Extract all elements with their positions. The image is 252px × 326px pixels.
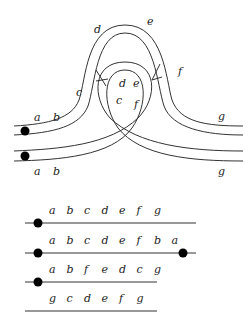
top-labels: defcdecfabgabg	[34, 15, 225, 178]
sequence-label: d	[84, 292, 91, 305]
sequence-label: f	[118, 292, 125, 305]
strand-label: e	[147, 15, 154, 28]
endpoint-dot	[179, 249, 188, 258]
arch-ribbon	[14, 25, 243, 135]
endpoint-dot	[21, 127, 30, 136]
loop-ribbon	[14, 62, 243, 161]
endpoint-dot	[34, 219, 43, 228]
sequence-label: g	[154, 204, 161, 217]
strand-label: a	[34, 111, 41, 124]
crossing-marks	[96, 64, 162, 86]
sequence-label: f	[83, 263, 90, 276]
sequence-label: c	[67, 292, 73, 305]
strand-label: g	[218, 110, 225, 123]
strand-label: a	[34, 165, 41, 178]
strand-label: c	[76, 86, 82, 99]
sequence-label: b	[154, 234, 161, 247]
sequence-label: g	[49, 292, 56, 305]
sequence-label: e	[102, 292, 109, 305]
strand-label: f	[133, 98, 140, 111]
sequence-lines: abcdefgabcdefbaabfedcggcdefg	[25, 204, 196, 311]
sequence-label: c	[137, 263, 143, 276]
sequence-label: g	[137, 292, 144, 305]
sequence-label: a	[172, 234, 179, 247]
strand-label: b	[53, 111, 60, 124]
strand-label: d	[119, 77, 126, 90]
sequence-label: b	[67, 204, 74, 217]
sequence-label: d	[119, 263, 126, 276]
endpoint-dot	[34, 249, 43, 258]
sequence-label: b	[67, 234, 74, 247]
strand-label: f	[177, 65, 184, 78]
strand-label: b	[53, 165, 60, 178]
strand-label: d	[94, 23, 101, 36]
sequence-label: e	[102, 263, 109, 276]
endpoint-dot	[21, 152, 30, 161]
sequence-label: c	[84, 234, 90, 247]
sequence-label: d	[102, 234, 109, 247]
knot-diagram: defcdecfabgabg abcdefgabcdefbaabfedcggcd…	[0, 0, 252, 326]
sequence-label: e	[119, 204, 126, 217]
sequence-label: a	[49, 263, 56, 276]
strand-label: g	[218, 165, 225, 178]
sequence-label: a	[49, 204, 56, 217]
sequence-label: d	[102, 204, 109, 217]
sequence-label: f	[136, 234, 143, 247]
sequence-label: f	[136, 204, 143, 217]
strand-label: c	[116, 94, 122, 107]
endpoint-dot	[34, 278, 43, 287]
sequence-label: c	[84, 204, 90, 217]
sequence-label: b	[67, 263, 74, 276]
strand-label: e	[133, 77, 140, 90]
sequence-label: e	[119, 234, 126, 247]
sequence-label: a	[49, 234, 56, 247]
sequence-label: g	[154, 263, 161, 276]
